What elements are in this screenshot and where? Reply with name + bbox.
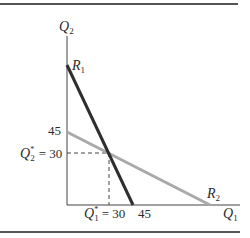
- r1-label: R1: [71, 58, 85, 75]
- y-axis-label: Q2: [59, 19, 74, 36]
- y-tick-45: 45: [48, 123, 61, 138]
- q1-star-label: Q*1= 30: [84, 205, 125, 223]
- reaction-curve-r1: [67, 65, 133, 205]
- reaction-curve-diagram: Q2 Q1 R1 R2 45 45 Q*2= 30 Q*1= 30: [0, 0, 250, 238]
- x-tick-45: 45: [138, 206, 151, 221]
- reaction-curve-r2: [67, 132, 210, 205]
- q2-star-label: Q*2= 30: [20, 145, 62, 163]
- r2-label: R2: [206, 186, 220, 203]
- x-axis-label: Q1: [223, 206, 238, 223]
